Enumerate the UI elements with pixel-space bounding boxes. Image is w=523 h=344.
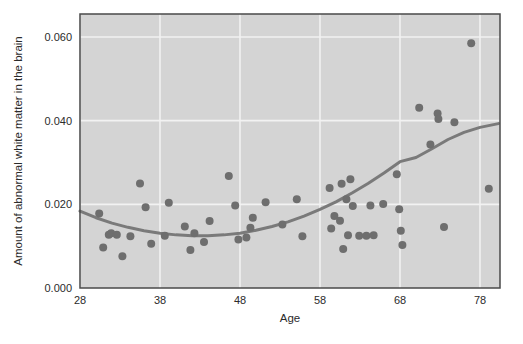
data-point (136, 179, 144, 187)
chart-figure: 283848586878 0.0000.0200.0400.060 Age Am… (0, 0, 523, 344)
x-axis-tick-labels: 283848586878 (74, 294, 486, 306)
y-axis-title: Amount of abnormal white matter in the b… (12, 36, 24, 265)
data-point (165, 199, 173, 207)
x-tick-label-38: 38 (154, 294, 166, 306)
y-tick-label-0.040: 0.040 (44, 115, 72, 127)
x-tick-label-28: 28 (74, 294, 86, 306)
data-point (397, 227, 405, 235)
data-point (200, 238, 208, 246)
data-point (467, 39, 475, 47)
data-point (338, 180, 346, 188)
data-point (342, 195, 350, 203)
data-point (355, 232, 363, 240)
data-point (161, 232, 169, 240)
data-point (99, 243, 107, 251)
data-point (339, 245, 347, 253)
data-point (398, 241, 406, 249)
data-point (395, 205, 403, 213)
data-point (379, 200, 387, 208)
data-point (346, 175, 354, 183)
data-point (147, 240, 155, 248)
data-point (186, 246, 194, 254)
data-point (440, 223, 448, 231)
y-tick-label-0.000: 0.000 (44, 282, 72, 294)
data-point (181, 223, 189, 231)
data-point (206, 217, 214, 225)
x-tick-label-48: 48 (234, 294, 246, 306)
data-point (366, 202, 374, 210)
data-point (242, 233, 250, 241)
data-point (262, 198, 270, 206)
data-point (344, 231, 352, 239)
data-point (327, 225, 335, 233)
data-point (234, 235, 242, 243)
data-point (349, 202, 357, 210)
data-point (246, 224, 254, 232)
data-point (249, 214, 257, 222)
y-tick-label-0.060: 0.060 (44, 31, 72, 43)
data-point (450, 118, 458, 126)
data-point (95, 210, 103, 218)
data-point (225, 172, 233, 180)
data-point (426, 141, 434, 149)
x-tick-label-78: 78 (474, 294, 486, 306)
data-point (393, 170, 401, 178)
data-point (113, 231, 121, 239)
y-tick-label-0.020: 0.020 (44, 198, 72, 210)
data-point (485, 185, 493, 193)
plot-area-background (80, 14, 500, 288)
data-point (362, 232, 370, 240)
y-axis-tick-labels: 0.0000.0200.0400.060 (44, 31, 72, 294)
data-point (434, 115, 442, 123)
x-axis-title: Age (280, 312, 300, 324)
data-point (118, 252, 126, 260)
data-point (231, 202, 239, 210)
data-point (293, 195, 301, 203)
data-point (336, 217, 344, 225)
data-point (370, 231, 378, 239)
data-point (126, 232, 134, 240)
data-point (278, 220, 286, 228)
data-point (142, 203, 150, 211)
data-point (415, 104, 423, 112)
x-tick-label-68: 68 (394, 294, 406, 306)
data-point (298, 232, 306, 240)
data-point (190, 229, 198, 237)
scatter-plot-svg: 283848586878 0.0000.0200.0400.060 Age Am… (0, 0, 523, 344)
x-tick-label-58: 58 (314, 294, 326, 306)
data-point (326, 184, 334, 192)
